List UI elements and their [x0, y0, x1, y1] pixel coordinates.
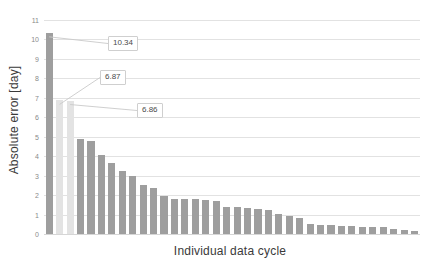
chart-figure: Absolute error [day] 01234567891011 10.3…	[0, 0, 432, 273]
bar	[46, 33, 53, 234]
bar-slot	[347, 20, 357, 234]
bar-slot	[54, 20, 64, 234]
bar	[411, 231, 418, 234]
bar	[359, 227, 366, 234]
bar-slot	[75, 20, 85, 234]
bar-slot	[138, 20, 148, 234]
bar	[150, 188, 157, 234]
bar	[223, 207, 230, 234]
bar-slot	[221, 20, 231, 234]
bar-slot	[263, 20, 273, 234]
bar	[192, 199, 199, 234]
bar-slot	[284, 20, 294, 234]
bar-series	[44, 20, 420, 234]
y-axis-tick-label: 4	[35, 153, 39, 160]
y-axis-tick-label: 9	[35, 55, 39, 62]
y-axis-tick-label: 0	[35, 231, 39, 238]
bar-slot	[253, 20, 263, 234]
bar	[296, 218, 303, 234]
bar	[401, 230, 408, 234]
data-label-callout: 10.34	[108, 36, 138, 51]
bar-slot	[169, 20, 179, 234]
bar-slot	[295, 20, 305, 234]
bar	[327, 225, 334, 234]
y-axis-tick-label: 10	[31, 36, 39, 43]
bar-slot	[232, 20, 242, 234]
bar-slot	[378, 20, 388, 234]
y-axis-tick-label: 7	[35, 94, 39, 101]
gridline	[44, 234, 420, 235]
bar	[307, 224, 314, 234]
data-label-callout: 6.87	[100, 70, 126, 85]
y-axis-title: Absolute error [day]	[0, 0, 28, 240]
bar	[140, 185, 147, 234]
bar	[317, 225, 324, 234]
plot-area: 01234567891011 10.346.876.86	[44, 20, 420, 234]
bar	[265, 210, 272, 234]
bar	[98, 155, 105, 234]
y-axis-tick-label: 5	[35, 133, 39, 140]
y-axis-title-text: Absolute error [day]	[7, 66, 21, 175]
bar	[56, 100, 63, 234]
bar-slot	[305, 20, 315, 234]
bar	[181, 199, 188, 234]
bar-slot	[388, 20, 398, 234]
bar-slot	[326, 20, 336, 234]
bar	[286, 216, 293, 234]
bar	[129, 176, 136, 234]
bar-slot	[336, 20, 346, 234]
x-axis-title-text: Individual data cycle	[174, 244, 286, 258]
bar-slot	[368, 20, 378, 234]
bar	[390, 229, 397, 234]
bar-slot	[44, 20, 54, 234]
bar-slot	[190, 20, 200, 234]
bar	[338, 226, 345, 234]
y-axis-tick-label: 1	[35, 211, 39, 218]
bar	[67, 101, 74, 234]
bar	[244, 208, 251, 234]
bar	[87, 141, 94, 234]
y-axis-tick-label: 2	[35, 192, 39, 199]
bar-slot	[274, 20, 284, 234]
bar-slot	[148, 20, 158, 234]
bar-slot	[211, 20, 221, 234]
bar-slot	[107, 20, 117, 234]
y-axis-tick-label: 6	[35, 114, 39, 121]
bar	[108, 163, 115, 234]
bar-slot	[357, 20, 367, 234]
y-axis-tick-label: 8	[35, 75, 39, 82]
bar-slot	[65, 20, 75, 234]
bar-slot	[128, 20, 138, 234]
bar	[213, 201, 220, 234]
bar	[171, 199, 178, 234]
bar	[119, 171, 126, 234]
bar	[202, 200, 209, 234]
bar-slot	[86, 20, 96, 234]
bar-slot	[201, 20, 211, 234]
bar	[234, 207, 241, 234]
y-axis-tick-label: 3	[35, 172, 39, 179]
data-label-callout: 6.86	[137, 103, 163, 118]
bar-slot	[180, 20, 190, 234]
bar	[77, 139, 84, 234]
x-axis-title: Individual data cycle	[40, 244, 420, 258]
bar-slot	[409, 20, 419, 234]
bar	[348, 226, 355, 234]
y-axis-tick-label: 11	[32, 17, 39, 24]
bar-slot	[399, 20, 409, 234]
bar	[369, 227, 376, 234]
bar	[275, 214, 282, 234]
bar-slot	[242, 20, 252, 234]
bar	[254, 209, 261, 234]
bar-slot	[159, 20, 169, 234]
bar-slot	[117, 20, 127, 234]
bar	[380, 227, 387, 234]
bar-slot	[96, 20, 106, 234]
bar-slot	[315, 20, 325, 234]
bar	[160, 196, 167, 234]
